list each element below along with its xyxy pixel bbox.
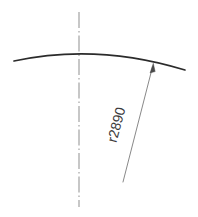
drawing-svg: r2890 [0,0,198,217]
shallow-arc [14,54,185,70]
radius-leader-line [123,67,153,182]
leader-arrowhead-icon [150,63,155,73]
technical-drawing-canvas: r2890 [0,0,198,217]
radius-dimension-label: r2890 [104,105,129,144]
